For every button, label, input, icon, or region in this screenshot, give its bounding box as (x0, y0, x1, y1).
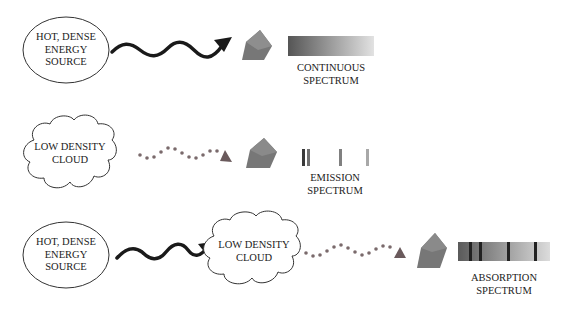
spectra-diagram: HOT, DENSE ENERGY SOURCE CONTINUOUS SPEC… (0, 0, 565, 315)
prism-icon (242, 30, 272, 60)
dotted-wave-arrow (304, 243, 406, 258)
continuous-spectrum-bar (288, 36, 374, 56)
source-label: HOT, DENSE ENERGY SOURCE (26, 31, 106, 69)
prism-icon (417, 233, 447, 268)
caption-line: SPECTRUM (286, 75, 376, 88)
caption-line: SPECTRUM (295, 185, 375, 198)
prism-icon (246, 138, 277, 168)
caption-line: ABSORPTION (458, 272, 550, 285)
label-line: ENERGY (26, 249, 106, 262)
label-line: HOT, DENSE (26, 236, 106, 249)
cloud-label: LOW DENSITY CLOUD (210, 239, 298, 264)
continuous-spectrum-caption: CONTINUOUS SPECTRUM (286, 62, 376, 87)
emission-spectrum-lines (302, 149, 369, 166)
label-line: HOT, DENSE (26, 31, 106, 44)
solid-wave-arrow (117, 244, 205, 259)
label-line: LOW DENSITY (210, 239, 298, 252)
cloud-label: LOW DENSITY CLOUD (28, 141, 112, 166)
label-line: LOW DENSITY (28, 141, 112, 154)
caption-line: EMISSION (295, 172, 375, 185)
caption-line: SPECTRUM (458, 285, 550, 298)
source-label: HOT, DENSE ENERGY SOURCE (26, 236, 106, 274)
emission-spectrum-caption: EMISSION SPECTRUM (295, 172, 375, 197)
solid-wave-arrow (112, 42, 222, 57)
absorption-spectrum-caption: ABSORPTION SPECTRUM (458, 272, 550, 297)
label-line: CLOUD (28, 154, 112, 167)
label-line: CLOUD (210, 252, 298, 265)
arrowhead (214, 37, 232, 52)
dotted-wave-arrow (138, 146, 232, 162)
caption-line: CONTINUOUS (286, 62, 376, 75)
label-line: ENERGY (26, 44, 106, 57)
label-line: SOURCE (26, 261, 106, 274)
label-line: SOURCE (26, 56, 106, 69)
